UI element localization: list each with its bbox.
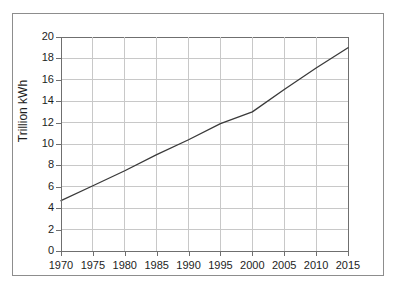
- x-tick-mark: [125, 252, 126, 256]
- y-tick-label: 12: [14, 117, 54, 128]
- y-tick-label: 14: [14, 95, 54, 106]
- chart-figure: Trillion kWh 02468101214161820 197019751…: [0, 0, 396, 289]
- y-tick-mark: [56, 208, 61, 209]
- y-tick-label: 2: [14, 224, 54, 235]
- plot-area: [61, 37, 348, 251]
- y-tick-label: 18: [14, 52, 54, 63]
- y-tick-label: 8: [14, 159, 54, 170]
- y-tick-mark: [56, 58, 61, 59]
- y-tick-mark: [56, 144, 61, 145]
- y-tick-label: 10: [14, 138, 54, 149]
- x-tick-mark: [348, 252, 349, 256]
- y-tick-mark: [56, 165, 61, 166]
- y-tick-label: 4: [14, 202, 54, 213]
- x-tick-mark: [93, 252, 94, 256]
- x-tick-mark: [316, 252, 317, 256]
- y-tick-label: 6: [14, 181, 54, 192]
- x-tick-mark: [284, 252, 285, 256]
- y-tick-mark: [56, 37, 61, 38]
- y-tick-mark: [56, 187, 61, 188]
- x-tick-mark: [252, 252, 253, 256]
- y-tick-label: 0: [14, 245, 54, 256]
- y-axis-spine: [61, 37, 62, 252]
- x-tick-mark: [157, 252, 158, 256]
- y-axis-tick-labels: 02468101214161820: [12, 0, 54, 289]
- x-tick-mark: [189, 252, 190, 256]
- x-tick-label: 2015: [328, 259, 368, 271]
- x-axis-spine: [61, 251, 349, 252]
- x-tick-mark: [61, 252, 62, 256]
- x-tick-mark: [220, 252, 221, 256]
- data-line-series: [61, 37, 348, 251]
- y-tick-mark: [56, 123, 61, 124]
- data-line: [61, 48, 348, 201]
- y-tick-label: 16: [14, 74, 54, 85]
- y-tick-mark: [56, 80, 61, 81]
- y-tick-label: 20: [14, 31, 54, 42]
- y-tick-mark: [56, 101, 61, 102]
- y-tick-mark: [56, 230, 61, 231]
